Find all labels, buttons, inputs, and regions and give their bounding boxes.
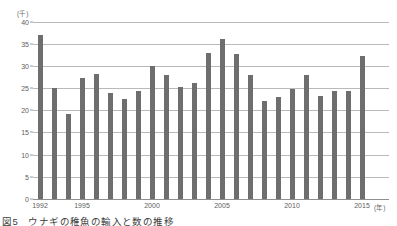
y-axis-unit-label: (千) xyxy=(17,8,28,18)
y-axis-tick-label: 20 xyxy=(21,107,29,114)
bar xyxy=(262,101,267,199)
bar xyxy=(346,91,351,199)
y-axis-tick-label: 30 xyxy=(21,62,29,69)
bar xyxy=(220,39,225,199)
bar xyxy=(276,97,281,199)
bar xyxy=(332,91,337,199)
bar xyxy=(80,78,85,199)
bar xyxy=(94,74,99,199)
x-axis-tick-label: 2015 xyxy=(354,202,370,209)
bars-group xyxy=(33,22,389,200)
bar xyxy=(136,91,141,199)
bar xyxy=(234,54,239,199)
y-axis-tick-label: 5 xyxy=(25,173,29,180)
bar xyxy=(122,99,127,199)
bar xyxy=(290,89,295,199)
x-axis-tick-label: 2010 xyxy=(284,202,300,209)
x-axis-labels-group: 199219952000200520102015(年) xyxy=(33,199,389,213)
plot-area: 0510152025303540 19921995200020052010201… xyxy=(33,22,389,200)
y-axis-tick-label: 15 xyxy=(21,129,29,136)
x-axis-tick-label: 2005 xyxy=(214,202,230,209)
x-axis-tick-label: 1992 xyxy=(32,202,48,209)
y-axis-tick-label: 0 xyxy=(25,196,29,203)
bar xyxy=(108,93,113,200)
bar xyxy=(206,53,211,199)
bar xyxy=(38,35,43,199)
bar xyxy=(248,75,253,199)
y-axis-tick-label: 40 xyxy=(21,18,29,25)
y-axis-tick-label: 35 xyxy=(21,40,29,47)
bar xyxy=(52,88,57,199)
x-axis-tick-label: 1995 xyxy=(74,202,90,209)
figure-caption: 図5 ウナギの稚魚の輸入と数の推移 xyxy=(2,214,174,226)
bar xyxy=(304,75,309,199)
bar xyxy=(192,83,197,199)
chart-figure: (千) 0510152025303540 1992199520002005201… xyxy=(0,0,397,226)
bar xyxy=(178,87,183,199)
x-axis-tick-label: 2000 xyxy=(144,202,160,209)
bar xyxy=(150,66,155,199)
y-axis-tick-label: 10 xyxy=(21,151,29,158)
y-axis-tick-label: 25 xyxy=(21,85,29,92)
x-axis-unit-label: (年) xyxy=(374,202,385,212)
bar xyxy=(66,114,71,199)
bar xyxy=(164,75,169,199)
bar xyxy=(318,96,323,199)
bar xyxy=(360,56,365,199)
